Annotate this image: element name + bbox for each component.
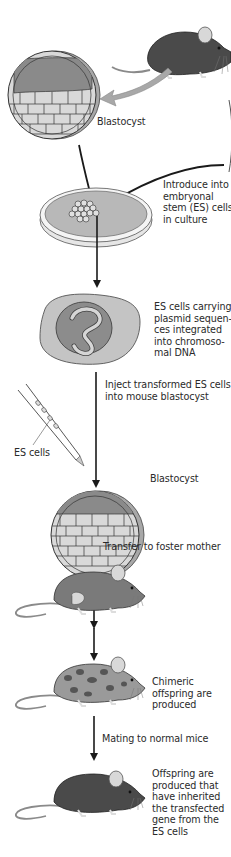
plasmid-arc-icon — [229, 100, 231, 172]
label-line: Introduce into — [163, 179, 231, 191]
donor-mouse-icon — [112, 27, 231, 78]
label-line: into chromoso- — [154, 336, 231, 348]
label-line: produced that — [152, 780, 224, 792]
label-line: the transfected — [152, 803, 224, 815]
label-line: embryonal — [163, 191, 231, 203]
foster-mother-mouse-icon — [16, 565, 145, 617]
label-line: ES cells carrying — [154, 301, 231, 313]
label-line: produced — [152, 699, 212, 711]
label-inject-transformed-es-cells: Inject transformed ES cells into mouse b… — [105, 379, 231, 402]
diagram-illustration — [0, 0, 231, 857]
label-offspring-inherited-gene: Offspring are produced that have inherit… — [152, 768, 224, 838]
label-es-cells: ES cells — [14, 447, 50, 459]
blastocyst-top-icon — [8, 51, 100, 139]
harvest-arrow-icon — [100, 68, 172, 106]
label-line: gene from the — [152, 814, 224, 826]
label-blastocyst-mid: Blastocyst — [150, 473, 198, 485]
blastocyst-injected-icon — [50, 475, 144, 579]
label-introduce-into-es-cells: Introduce into embryonal stem (ES) cells… — [163, 179, 231, 225]
transformed-es-cell-icon — [40, 294, 140, 364]
label-blastocyst-top: Blastocyst — [97, 116, 145, 128]
label-mating-to-normal-mice: Mating to normal mice — [102, 733, 208, 745]
label-line: plasmid sequen- — [154, 313, 231, 325]
transgenic-offspring-mouse-icon — [16, 771, 145, 819]
label-line: ces integrated — [154, 324, 231, 336]
label-line: have inherited — [152, 791, 224, 803]
label-chimeric-offspring: Chimeric offspring are produced — [152, 676, 212, 711]
label-es-cells-carrying-plasmid: ES cells carrying plasmid sequen- ces in… — [154, 301, 231, 359]
label-line: Offspring are — [152, 768, 224, 780]
chimeric-offspring-mouse-icon — [16, 657, 145, 709]
label-line: mal DNA — [154, 347, 231, 359]
label-line: in culture — [163, 214, 231, 226]
label-line: Inject transformed ES cells — [105, 379, 231, 391]
label-transfer-to-foster-mother: Transfer to foster mother — [103, 541, 221, 553]
label-line: offspring are — [152, 688, 212, 700]
label-line: Chimeric — [152, 676, 212, 688]
label-line: stem (ES) cells — [163, 202, 231, 214]
label-line: into mouse blastocyst — [105, 391, 231, 403]
label-line: ES cells — [152, 826, 224, 838]
petri-dish-icon — [40, 188, 152, 247]
es-cell-transgenic-mouse-diagram: Blastocyst Introduce into embryonal stem… — [0, 0, 231, 857]
